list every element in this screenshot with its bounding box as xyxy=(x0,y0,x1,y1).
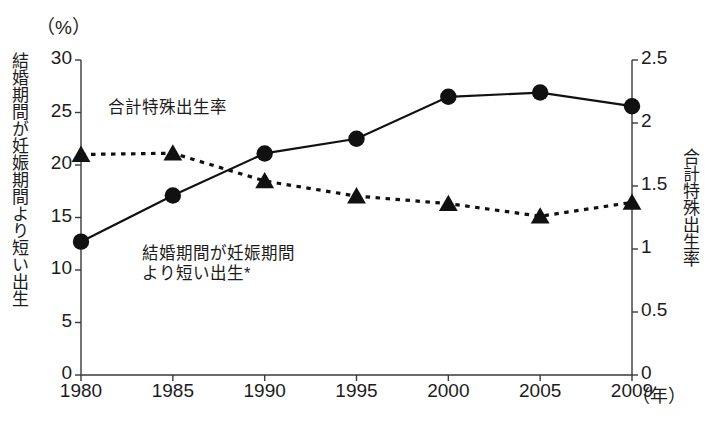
x-axis-tick-1980: 1980 xyxy=(41,380,121,402)
x-axis-tick-2000: 2000 xyxy=(408,380,488,402)
annotation-tfr: 合計特殊出生率 xyxy=(108,97,227,117)
footnote xyxy=(0,408,718,427)
x-axis-tick-1985: 1985 xyxy=(133,380,213,402)
right-axis-tick-1: 1 xyxy=(641,236,691,258)
chart-root: （%） 結婚期間が妊娠期間より短い出生 合計特殊出生率 302520151050… xyxy=(0,0,718,427)
x-axis-tick-1990: 1990 xyxy=(225,380,305,402)
right-axis-tick-2: 2 xyxy=(641,110,691,132)
annotation-premarital-line2: より短い出生* xyxy=(142,263,295,283)
right-axis-tick-1.5: 1.5 xyxy=(641,173,691,195)
right-axis-tick-0.5: 0.5 xyxy=(641,299,691,321)
left-axis-tick-10: 10 xyxy=(32,257,72,279)
left-axis-tick-5: 5 xyxy=(32,310,72,332)
right-axis-tick-2.5: 2.5 xyxy=(641,47,691,69)
left-axis-tick-30: 30 xyxy=(32,47,72,69)
x-axis-tick-1995: 1995 xyxy=(317,380,397,402)
left-axis-tick-25: 25 xyxy=(32,100,72,122)
x-axis-tick-2005: 2005 xyxy=(500,380,580,402)
x-axis-unit: （年） xyxy=(632,381,686,407)
annotation-premarital-line1: 結婚期間が妊娠期間 xyxy=(142,243,295,263)
left-axis-tick-15: 15 xyxy=(32,205,72,227)
left-axis-tick-20: 20 xyxy=(32,152,72,174)
chart-canvas xyxy=(0,0,718,427)
annotation-premarital: 結婚期間が妊娠期間 より短い出生* xyxy=(142,243,295,283)
